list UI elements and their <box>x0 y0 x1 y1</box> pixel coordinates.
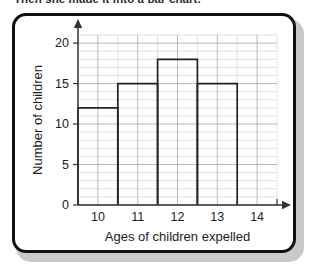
y-axis-title: Number of children <box>30 65 45 175</box>
x-tick-label: 13 <box>210 210 224 224</box>
y-tick-label: 10 <box>55 117 69 131</box>
y-tick-label: 0 <box>62 198 69 212</box>
x-tick-label: 10 <box>91 210 105 224</box>
x-axis-tick-labels: 1011121314 <box>91 210 264 224</box>
y-tick-label: 5 <box>62 158 69 172</box>
caption-text: Then she made it into a bar chart. <box>14 0 304 5</box>
bar-chart-figure: 05101520 1011121314 Number of children A… <box>12 13 296 253</box>
x-tick-label: 11 <box>131 210 144 224</box>
y-axis-arrow-icon <box>74 19 82 28</box>
x-axis-title: Ages of children expelled <box>105 229 250 244</box>
bar-chart-svg: 05101520 1011121314 Number of children A… <box>12 13 296 253</box>
x-tick-label: 14 <box>250 210 264 224</box>
vertical-major-gridlines <box>98 35 257 205</box>
y-tick-label: 15 <box>55 77 69 91</box>
x-axis-arrow-icon <box>282 201 291 209</box>
y-tick-label: 20 <box>55 36 69 50</box>
x-tick-label: 12 <box>171 210 185 224</box>
y-axis-tick-labels: 05101520 <box>55 36 69 212</box>
